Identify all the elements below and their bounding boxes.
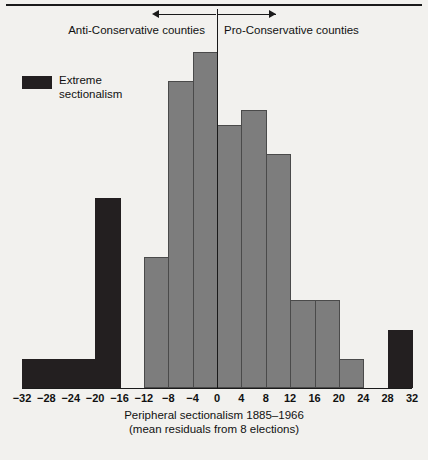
histogram-bar — [22, 359, 47, 388]
x-axis-tick-label: 16 — [308, 392, 320, 404]
x-axis-tick-label: −28 — [37, 392, 56, 404]
histogram-bar — [95, 198, 120, 388]
histogram-bar — [46, 359, 71, 388]
x-axis-tick-label: −16 — [110, 392, 129, 404]
x-axis-tick-label: 20 — [333, 392, 345, 404]
x-axis-tick-label: 8 — [263, 392, 269, 404]
x-axis-title-line1: Peripheral sectionalism 1885–1966 — [0, 408, 428, 422]
histogram-bar — [168, 81, 193, 388]
plot-area — [0, 0, 428, 460]
histogram-bar — [217, 125, 242, 388]
histogram-bar — [144, 257, 169, 388]
histogram-bar — [339, 359, 364, 388]
histogram-bar — [315, 300, 340, 388]
x-axis-tick-label: 28 — [382, 392, 394, 404]
x-axis-tick-label: 12 — [284, 392, 296, 404]
histogram-bar — [266, 154, 291, 388]
x-axis-tick-label: 32 — [406, 392, 418, 404]
histogram-bar — [193, 52, 218, 388]
histogram-bar — [71, 359, 96, 388]
histogram-figure: Anti-Conservative counties Pro-Conservat… — [0, 0, 428, 460]
x-axis-tick-label: −8 — [162, 392, 175, 404]
x-axis-tick-label: 4 — [238, 392, 244, 404]
x-axis-tick-label: −12 — [135, 392, 154, 404]
x-axis-title: Peripheral sectionalism 1885–1966 (mean … — [0, 408, 428, 436]
x-axis-tick-label: 0 — [214, 392, 220, 404]
x-axis-title-line2: (mean residuals from 8 elections) — [0, 422, 428, 436]
zero-reference-line — [217, 9, 218, 388]
histogram-bar — [241, 110, 266, 388]
histogram-bar — [290, 300, 315, 388]
histogram-bar — [388, 330, 413, 388]
x-axis-line — [22, 388, 412, 389]
x-axis-tick-label: −4 — [186, 392, 199, 404]
x-axis-tick-label: −24 — [61, 392, 80, 404]
x-axis-tick-label: 24 — [357, 392, 369, 404]
x-axis-tick-label: −20 — [86, 392, 105, 404]
x-axis-tick-label: −32 — [13, 392, 32, 404]
